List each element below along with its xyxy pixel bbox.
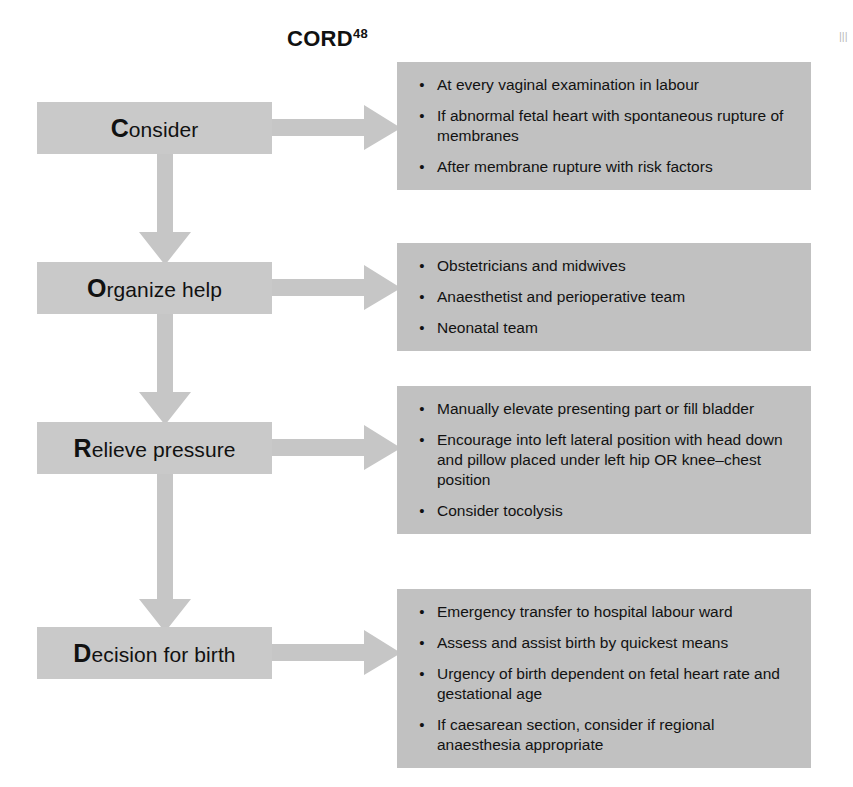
- bullet-icon: •: [407, 715, 437, 735]
- step-label-organize-help: Organize help: [87, 274, 222, 303]
- list-item-text: Consider tocolysis: [437, 501, 797, 521]
- diagram-title-text: CORD: [287, 26, 353, 51]
- step-rest-consider: onsider: [129, 118, 199, 141]
- bullet-icon: •: [407, 106, 437, 126]
- list-item-text: If caesarean section, consider if region…: [437, 715, 797, 755]
- step-initial-o: O: [87, 274, 107, 302]
- step-initial-d: D: [73, 639, 91, 667]
- vertical-arrow-3: [137, 468, 193, 633]
- bullet-icon: •: [407, 430, 437, 450]
- step-box-decision-for-birth[interactable]: Decision for birth: [37, 627, 272, 679]
- diagram-title-superscript: 48: [353, 26, 368, 41]
- step-initial-r: R: [73, 434, 91, 462]
- content-box-consider: • At every vaginal examination in labour…: [397, 62, 811, 190]
- list-item: • Manually elevate presenting part or fi…: [407, 399, 797, 419]
- list-item-text: Encourage into left lateral position wit…: [437, 430, 797, 490]
- vertical-arrow-1: [137, 148, 193, 266]
- list-item-text: Manually elevate presenting part or fill…: [437, 399, 797, 419]
- list-item: • Encourage into left lateral position w…: [407, 430, 797, 490]
- step-box-consider[interactable]: Consider: [37, 102, 272, 154]
- list-item-text: Anaesthetist and perioperative team: [437, 287, 797, 307]
- list-item: • If abnormal fetal heart with spontaneo…: [407, 106, 797, 146]
- bullet-icon: •: [407, 633, 437, 653]
- step-initial-c: C: [111, 114, 129, 142]
- step-rest-organize-help: rganize help: [106, 278, 222, 301]
- list-item: • Assess and assist birth by quickest me…: [407, 633, 797, 653]
- horizontal-arrow-1: [268, 105, 402, 151]
- list-item: • Consider tocolysis: [407, 501, 797, 521]
- list-item: • Obstetricians and midwives: [407, 256, 797, 276]
- list-item: • After membrane rupture with risk facto…: [407, 157, 797, 177]
- bullet-icon: •: [407, 501, 437, 521]
- list-item: • Neonatal team: [407, 318, 797, 338]
- step-label-decision-for-birth: Decision for birth: [73, 639, 235, 668]
- bullet-icon: •: [407, 602, 437, 622]
- horizontal-arrow-4: [268, 630, 402, 676]
- horizontal-arrow-2: [268, 265, 402, 311]
- content-box-decision-for-birth: • Emergency transfer to hospital labour …: [397, 589, 811, 768]
- bullet-icon: •: [407, 75, 437, 95]
- list-item: • Urgency of birth dependent on fetal he…: [407, 664, 797, 704]
- list-item-text: Urgency of birth dependent on fetal hear…: [437, 664, 797, 704]
- list-item-text: Assess and assist birth by quickest mean…: [437, 633, 797, 653]
- caption-remnant: |||: [839, 30, 853, 43]
- list-item: • If caesarean section, consider if regi…: [407, 715, 797, 755]
- list-item: • At every vaginal examination in labour: [407, 75, 797, 95]
- vertical-arrow-2: [137, 308, 193, 426]
- diagram-title: CORD48: [287, 26, 368, 52]
- step-label-relieve-pressure: Relieve pressure: [73, 434, 235, 463]
- content-box-organize-help: • Obstetricians and midwives • Anaesthet…: [397, 243, 811, 351]
- list-item-text: Neonatal team: [437, 318, 797, 338]
- list-item: • Emergency transfer to hospital labour …: [407, 602, 797, 622]
- list-item: • Anaesthetist and perioperative team: [407, 287, 797, 307]
- bullet-icon: •: [407, 157, 437, 177]
- step-box-relieve-pressure[interactable]: Relieve pressure: [37, 422, 272, 474]
- step-rest-decision-for-birth: ecision for birth: [92, 643, 236, 666]
- step-box-organize-help[interactable]: Organize help: [37, 262, 272, 314]
- step-label-consider: Consider: [111, 114, 199, 143]
- bullet-icon: •: [407, 287, 437, 307]
- bullet-icon: •: [407, 318, 437, 338]
- bullet-icon: •: [407, 664, 437, 684]
- list-item-text: After membrane rupture with risk factors: [437, 157, 797, 177]
- diagram-canvas: CORD48 Consider: [0, 0, 853, 787]
- list-item-text: If abnormal fetal heart with spontaneous…: [437, 106, 797, 146]
- bullet-icon: •: [407, 256, 437, 276]
- content-box-relieve-pressure: • Manually elevate presenting part or fi…: [397, 386, 811, 534]
- list-item-text: At every vaginal examination in labour: [437, 75, 797, 95]
- list-item-text: Obstetricians and midwives: [437, 256, 797, 276]
- step-rest-relieve-pressure: elieve pressure: [92, 438, 236, 461]
- horizontal-arrow-3: [268, 425, 402, 471]
- list-item-text: Emergency transfer to hospital labour wa…: [437, 602, 797, 622]
- bullet-icon: •: [407, 399, 437, 419]
